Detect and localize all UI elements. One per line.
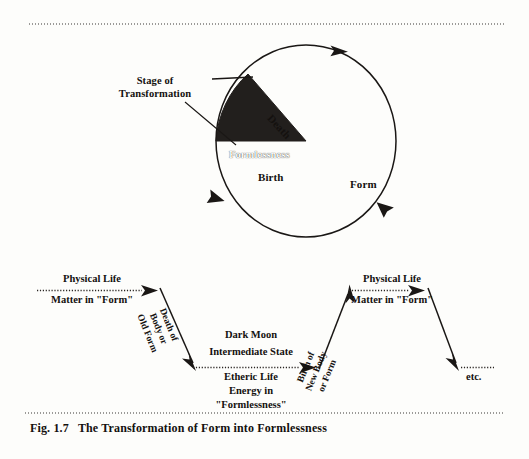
- cycle-arrow-lower-left: [205, 188, 224, 203]
- stage-label-line-1: Stage of: [103, 74, 207, 87]
- stage-2-below-line-1: Etheric Life: [195, 371, 307, 384]
- formlessness-label: Formlessness: [229, 148, 290, 161]
- stage-1-above-label: Physical Life: [47, 273, 137, 286]
- flow-diagram: Physical Life Matter in "Form" Death of …: [0, 268, 529, 418]
- figure-caption: Fig. 1.7The Transformation of Form into …: [30, 421, 327, 436]
- stage-label-line-2: Transformation: [103, 87, 207, 100]
- stage-1-below-label: Matter in "Form": [37, 294, 147, 307]
- stage-3-below-label: Matter in "Form": [337, 294, 447, 307]
- stage-3-above-label: Physical Life: [347, 273, 437, 286]
- stage-of-transformation-label: Stage of Transformation: [103, 74, 207, 100]
- cycle-diagram-svg: [0, 30, 529, 260]
- stage-2-below-line-3: "Formlessness": [190, 399, 312, 412]
- etc-label: etc.: [466, 371, 481, 382]
- figure-caption-title: The Transformation of Form into Formless…: [78, 421, 327, 435]
- stage-2-above-line-1: Dark Moon: [195, 329, 307, 342]
- top-dotted-rule: [28, 23, 506, 25]
- birth-label: Birth: [258, 171, 284, 185]
- caption-dotted-rule: [24, 412, 505, 414]
- cycle-diagram: Stage of Transformation Death Formlessne…: [0, 30, 529, 260]
- stage-2-below-line-2: Energy in: [195, 385, 307, 398]
- figure-page: Stage of Transformation Death Formlessne…: [0, 0, 529, 459]
- cycle-arrow-lower-right: [372, 201, 393, 219]
- stage-2-above-line-2: Intermediate State: [190, 346, 312, 359]
- figure-caption-number: Fig. 1.7: [30, 421, 69, 435]
- form-label: Form: [350, 178, 377, 192]
- cycle-arrow-top: [329, 46, 348, 59]
